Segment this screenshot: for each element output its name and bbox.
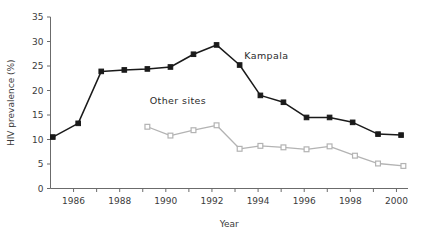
data-point-marker xyxy=(304,115,309,120)
data-point-marker xyxy=(237,146,242,151)
data-point-marker xyxy=(99,69,104,74)
chart-canvas: 05101520253035 1986198819901992199419961… xyxy=(0,0,424,242)
data-point-marker xyxy=(122,68,127,73)
y-axis-title: HIV prevalence (%) xyxy=(6,59,16,146)
y-axis-tick-label: 30 xyxy=(32,37,44,47)
y-axis-tick-label: 5 xyxy=(38,159,44,169)
series-annotation-kampala: Kampala xyxy=(244,50,288,61)
data-point-marker xyxy=(214,123,219,128)
data-point-marker xyxy=(353,153,358,158)
y-axis-tick-label: 10 xyxy=(32,135,44,145)
data-point-marker xyxy=(76,121,81,126)
data-point-marker xyxy=(191,52,196,57)
data-point-marker xyxy=(145,67,150,72)
data-point-marker xyxy=(145,124,150,129)
chart-background xyxy=(0,0,424,242)
x-axis-tick-label: 1994 xyxy=(247,196,270,206)
y-axis-tick-label: 35 xyxy=(32,12,43,22)
data-point-marker xyxy=(237,63,242,68)
data-point-marker xyxy=(327,144,332,149)
x-axis-tick-label: 1992 xyxy=(200,196,223,206)
data-point-marker xyxy=(376,132,381,137)
x-axis-tick-label: 1996 xyxy=(293,196,316,206)
data-point-marker xyxy=(258,93,263,98)
data-point-marker xyxy=(401,164,406,169)
series-annotation-other-sites: Other sites xyxy=(150,95,207,106)
y-axis-tick-label: 0 xyxy=(38,184,44,194)
data-point-marker xyxy=(191,128,196,133)
x-axis-tick-label: 1998 xyxy=(339,196,362,206)
data-point-marker xyxy=(281,100,286,105)
hiv-prevalence-chart: 05101520253035 1986198819901992199419961… xyxy=(0,0,424,242)
data-point-marker xyxy=(168,65,173,70)
data-point-marker xyxy=(168,133,173,138)
x-axis-title: Year xyxy=(219,219,239,229)
x-axis-tick-label: 1988 xyxy=(108,196,131,206)
data-point-marker xyxy=(327,115,332,120)
x-axis-tick-label: 1990 xyxy=(154,196,177,206)
x-axis-tick-label: 2000 xyxy=(385,196,408,206)
data-point-marker xyxy=(214,43,219,48)
data-point-marker xyxy=(399,133,404,138)
y-axis-tick-label: 20 xyxy=(32,86,44,96)
x-axis-tick-label: 1986 xyxy=(62,196,85,206)
data-point-marker xyxy=(258,143,263,148)
data-point-marker xyxy=(376,161,381,166)
y-axis-tick-label: 15 xyxy=(32,110,43,120)
y-axis-tick-label: 25 xyxy=(32,61,43,71)
data-point-marker xyxy=(350,120,355,125)
data-point-marker xyxy=(281,145,286,150)
data-point-marker xyxy=(304,147,309,152)
data-point-marker xyxy=(51,135,56,140)
